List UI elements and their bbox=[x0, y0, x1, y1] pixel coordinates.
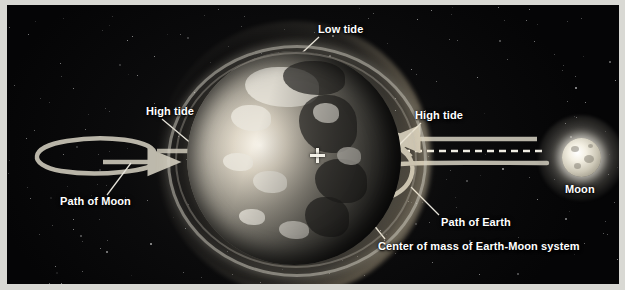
space-background: Low tide High tide High tide Path of Moo… bbox=[7, 5, 619, 284]
center-of-mass-marker bbox=[310, 148, 325, 163]
tidal-bulge-inner bbox=[175, 52, 417, 268]
label-low-tide: Low tide bbox=[318, 23, 363, 35]
label-path-of-moon: Path of Moon bbox=[60, 195, 131, 207]
label-path-of-earth: Path of Earth bbox=[441, 216, 511, 228]
figure-frame: Low tide High tide High tide Path of Moo… bbox=[0, 0, 625, 290]
label-high-tide-right: High tide bbox=[415, 109, 463, 121]
label-center-of-mass: Center of mass of Earth-Moon system bbox=[378, 240, 580, 252]
moon-sphere bbox=[562, 138, 601, 177]
leader-path-moon bbox=[107, 163, 131, 195]
path-of-moon-orbit bbox=[37, 138, 159, 173]
figure-canvas: Low tide High tide High tide Path of Moo… bbox=[0, 0, 625, 290]
label-high-tide-left: High tide bbox=[146, 105, 194, 117]
label-moon: Moon bbox=[565, 183, 595, 195]
